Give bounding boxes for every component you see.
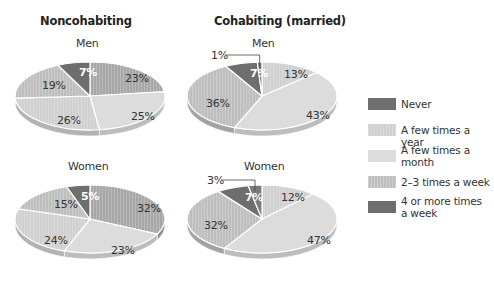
legend-label: 4 or more times a week bbox=[401, 195, 489, 219]
slice-label: 26% bbox=[57, 114, 81, 127]
slice-label: 5% bbox=[81, 190, 99, 203]
legend-swatch-4-or-more-times-week bbox=[368, 201, 396, 213]
slice-label: 36% bbox=[206, 97, 230, 110]
slice-label: 15% bbox=[54, 198, 78, 211]
pie-cohabiting-men: 13%43%36%7%1% bbox=[187, 49, 337, 136]
slice-label: 7% bbox=[250, 67, 268, 80]
legend-label: A few times a month bbox=[401, 144, 481, 168]
pie-noncohabiting-men: 23%25%26%19%7% bbox=[15, 62, 165, 136]
legend-label: 2–3 times a week bbox=[401, 176, 491, 188]
legend-swatch-never bbox=[368, 98, 396, 110]
slice-label: 12% bbox=[281, 191, 305, 204]
legend-swatch-few-times-month bbox=[368, 150, 396, 162]
slice-label: 24% bbox=[44, 234, 68, 247]
slice-label: 43% bbox=[306, 109, 330, 122]
slice-label: 25% bbox=[131, 110, 155, 123]
pie-cohabiting-women: 12%47%32%7%3% bbox=[187, 174, 337, 259]
slice-label: 32% bbox=[204, 219, 228, 232]
slice-label: 1% bbox=[211, 49, 228, 62]
legend-item-2-3-times-week: 2–3 times a week bbox=[368, 176, 491, 188]
slice-label: 23% bbox=[125, 72, 149, 85]
slice-label: 23% bbox=[111, 244, 135, 257]
legend-swatch-2-3-times-week bbox=[368, 176, 396, 188]
pie-noncohabiting-women: 32%23%24%15%5% bbox=[15, 185, 165, 259]
legend-label: Never bbox=[401, 98, 491, 110]
slice-label: 19% bbox=[42, 79, 66, 92]
legend-item-never: Never bbox=[368, 98, 491, 110]
slice-label: 13% bbox=[284, 68, 308, 81]
slice-label: 7% bbox=[79, 66, 97, 79]
slice-label: 32% bbox=[137, 202, 161, 215]
slice-label: 3% bbox=[207, 174, 224, 187]
slice-label: 47% bbox=[307, 234, 331, 247]
slice-label: 7% bbox=[245, 191, 263, 204]
legend-item-4-or-more-times-week: 4 or more times a week bbox=[368, 195, 489, 219]
legend-swatch-few-times-year bbox=[368, 124, 396, 136]
legend-item-few-times-month: A few times a month bbox=[368, 144, 481, 168]
